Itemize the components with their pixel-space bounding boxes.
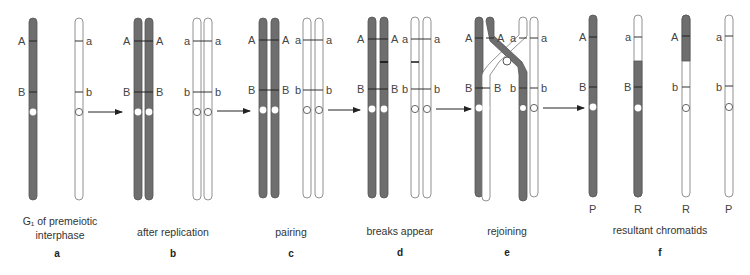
gene-label-b: b (716, 81, 722, 93)
caption-e: rejoining (457, 224, 557, 238)
gene-label-b: b (86, 86, 92, 98)
gene-label-a: a (86, 35, 92, 47)
gene-label-B: B (357, 83, 364, 95)
gene-label-b: b (326, 84, 332, 96)
gene-label-b: b (295, 84, 301, 96)
gene-label-b: b (510, 82, 516, 94)
gene-label-B: B (579, 81, 586, 93)
stage-d-chromosomes (368, 17, 431, 198)
gene-label-B: B (624, 81, 631, 93)
gene-label-a: a (215, 35, 221, 47)
caption-f: resultant chromatids (600, 223, 720, 237)
caption-d: breaks appear (350, 224, 450, 238)
gene-label-B: B (282, 84, 289, 96)
gene-label-b: b (672, 81, 678, 93)
stage-c-chromosomes (259, 18, 323, 198)
gene-label-A: A (18, 35, 25, 47)
stage-letter-b: b (163, 248, 183, 259)
gene-label-A: A (497, 32, 504, 44)
gene-label-A: A (357, 33, 364, 45)
stage-letter-d: d (390, 247, 410, 258)
gene-label-b: b (434, 83, 440, 95)
stage-letter-e: e (497, 247, 517, 258)
gene-label-a: a (625, 31, 631, 43)
caption-b: after replication (123, 225, 223, 239)
gene-label-a: a (184, 35, 190, 47)
gene-label-A: A (465, 32, 472, 44)
gene-label-B: B (18, 86, 25, 98)
stage-letter-c: c (281, 248, 301, 259)
gene-label-B: B (156, 86, 163, 98)
gene-label-b: b (402, 83, 408, 95)
gene-label-a: a (541, 32, 547, 44)
gene-label-A: A (579, 31, 586, 43)
gene-label-b: b (184, 86, 190, 98)
gene-label-B: B (248, 84, 255, 96)
chromatid-type-P: P (589, 203, 596, 215)
gene-label-A: A (282, 34, 289, 46)
stage-e-chromosomes (475, 17, 538, 201)
gene-label-a: a (326, 34, 332, 46)
gene-label-A: A (248, 34, 255, 46)
stage-f-chromatids (589, 15, 733, 197)
gene-label-b: b (215, 86, 221, 98)
chromatid-type-R: R (634, 203, 642, 215)
gene-label-b: b (541, 82, 547, 94)
stage-a-chromosomes (29, 18, 83, 200)
gene-label-A: A (391, 33, 398, 45)
caption-c: pairing (241, 225, 341, 239)
gene-label-B: B (494, 82, 501, 94)
chromatid-type-R: R (682, 203, 690, 215)
chromatid-type-P: P (725, 203, 732, 215)
stage-letter-a: a (47, 248, 67, 259)
gene-label-B: B (391, 83, 398, 95)
gene-label-B: B (123, 86, 130, 98)
gene-label-B: B (465, 82, 472, 94)
stage-b-chromosomes (134, 18, 212, 200)
gene-label-a: a (295, 34, 301, 46)
stage-letter-f: f (650, 247, 670, 258)
gene-label-A: A (671, 31, 678, 43)
gene-label-A: A (156, 35, 163, 47)
gene-label-a: a (434, 33, 440, 45)
gene-label-a: a (510, 32, 516, 44)
caption-a: G₁ of premeiotic interphase (10, 214, 110, 242)
gene-label-a: a (716, 31, 722, 43)
gene-label-a: a (402, 33, 408, 45)
gene-label-A: A (123, 35, 130, 47)
